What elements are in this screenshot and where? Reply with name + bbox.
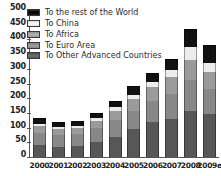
legend-item-label: To Euro Area <box>45 41 95 50</box>
bar-segment <box>127 86 140 94</box>
bar-segment <box>184 47 197 60</box>
bar-stack[interactable] <box>127 86 140 157</box>
legend-item[interactable]: To Other Advanced Countries <box>27 51 162 61</box>
bar-segment <box>203 114 216 157</box>
bar-segment <box>165 119 178 157</box>
bar-segment <box>109 111 122 120</box>
y-axis-tick-label: 100 <box>2 122 26 130</box>
bar-stack[interactable] <box>71 121 84 157</box>
stacked-bar-chart: 500450400350300250200150100500 200020012… <box>0 0 221 176</box>
y-axis-tick-label: 0 <box>2 151 26 159</box>
swatch-africa-icon <box>27 31 40 38</box>
bar-segment <box>165 94 178 119</box>
bar-segment <box>127 111 140 130</box>
bar-segment <box>33 133 46 146</box>
bar-segment <box>146 73 159 82</box>
legend-item[interactable]: To Africa <box>27 30 162 40</box>
bar-stack[interactable] <box>165 59 178 157</box>
y-axis-tick-label: 500 <box>2 4 26 12</box>
bar-stack[interactable] <box>109 101 122 157</box>
swatch-rest-of-world-icon <box>27 9 40 16</box>
y-axis-tick-label: 350 <box>2 48 26 56</box>
legend-item[interactable]: To the rest of the World <box>27 8 162 18</box>
y-axis-tick-mark <box>27 157 31 158</box>
chart-legend: To the rest of the WorldTo ChinaTo Afric… <box>27 8 162 62</box>
bar-stack[interactable] <box>90 113 103 157</box>
legend-item-label: To Africa <box>45 30 79 39</box>
bar-segment <box>71 146 84 157</box>
bar-segment <box>52 147 65 157</box>
bar-segment <box>203 63 216 72</box>
bar-segment <box>71 134 84 146</box>
bar-segment <box>52 135 65 147</box>
y-axis-tick-label: 250 <box>2 78 26 86</box>
bar-segment <box>203 45 216 62</box>
bar-segment <box>184 80 197 111</box>
swatch-china-icon <box>27 20 40 27</box>
bar-segment <box>90 121 103 128</box>
bar-segment <box>165 77 178 95</box>
y-axis-tick-label: 200 <box>2 92 26 100</box>
bar-segment <box>203 72 216 89</box>
bar-segment <box>90 128 103 142</box>
bar-stack[interactable] <box>52 122 65 157</box>
bar-segment <box>146 122 159 157</box>
legend-item[interactable]: To Euro Area <box>27 40 162 50</box>
bar-segment <box>127 99 140 110</box>
bar-segment <box>109 137 122 157</box>
legend-item[interactable]: To China <box>27 19 162 29</box>
bar-segment <box>33 145 46 157</box>
bar-stack[interactable] <box>184 29 197 157</box>
y-axis-tick-label: 300 <box>2 63 26 71</box>
bar-segment <box>146 101 159 122</box>
x-axis-label: 2009e <box>197 161 221 170</box>
y-axis-tick-label: 50 <box>2 136 26 144</box>
y-axis-tick-label: 450 <box>2 19 26 27</box>
bar-segment <box>165 59 178 70</box>
y-axis-tick-label: 400 <box>2 33 26 41</box>
legend-item-label: To China <box>45 19 79 28</box>
bar-segment <box>109 120 122 137</box>
bar-segment <box>127 129 140 157</box>
legend-item-label: To Other Advanced Countries <box>45 51 162 60</box>
bar-stack[interactable] <box>203 45 216 157</box>
swatch-other-advanced-icon <box>27 52 40 59</box>
legend-item-label: To the rest of the World <box>45 8 138 17</box>
x-axis-line <box>29 157 219 158</box>
bar-segment <box>203 89 216 114</box>
bar-segment <box>146 87 159 101</box>
bar-segment <box>90 142 103 157</box>
bar-segment <box>184 29 197 47</box>
y-axis-tick-label: 150 <box>2 107 26 115</box>
bar-segment <box>184 60 197 80</box>
swatch-euro-area-icon <box>27 42 40 49</box>
bar-stack[interactable] <box>146 73 159 157</box>
bar-stack[interactable] <box>33 118 46 157</box>
bar-segment <box>184 111 197 157</box>
